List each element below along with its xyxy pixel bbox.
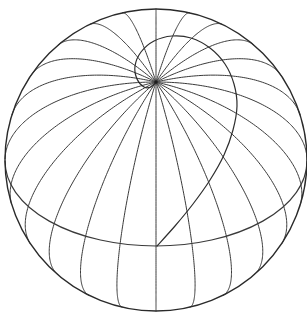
meridian-line [123, 13, 157, 82]
meridian-lines [5, 9, 307, 311]
meridian-line [156, 82, 195, 307]
loxodrome-spiral [135, 36, 237, 246]
sphere-diagram [0, 0, 307, 321]
meridian-line [156, 13, 190, 82]
pole-point [154, 80, 157, 83]
meridian-line [117, 82, 156, 307]
sphere-svg [0, 0, 307, 321]
meridian-line [10, 82, 156, 204]
